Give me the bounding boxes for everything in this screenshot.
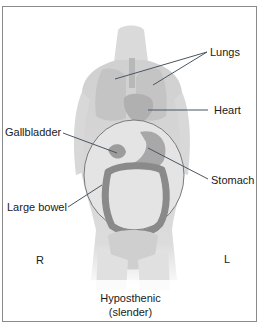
label-left-side: L [224,253,230,266]
neck [114,26,148,63]
label-right-side: R [36,254,44,267]
label-heart: Heart [214,104,241,117]
abdomen-window [84,120,184,230]
label-large-bowel: Large bowel [7,201,67,214]
caption-line-2: (slender) [0,305,261,319]
caption-line-1: Hyposthenic [0,291,261,305]
label-lungs: Lungs [210,46,240,59]
caption-body-type: Hyposthenic (slender) [0,291,261,319]
label-stomach: Stomach [211,174,254,187]
label-gallbladder: Gallbladder [5,126,61,139]
right-lung [95,68,126,120]
